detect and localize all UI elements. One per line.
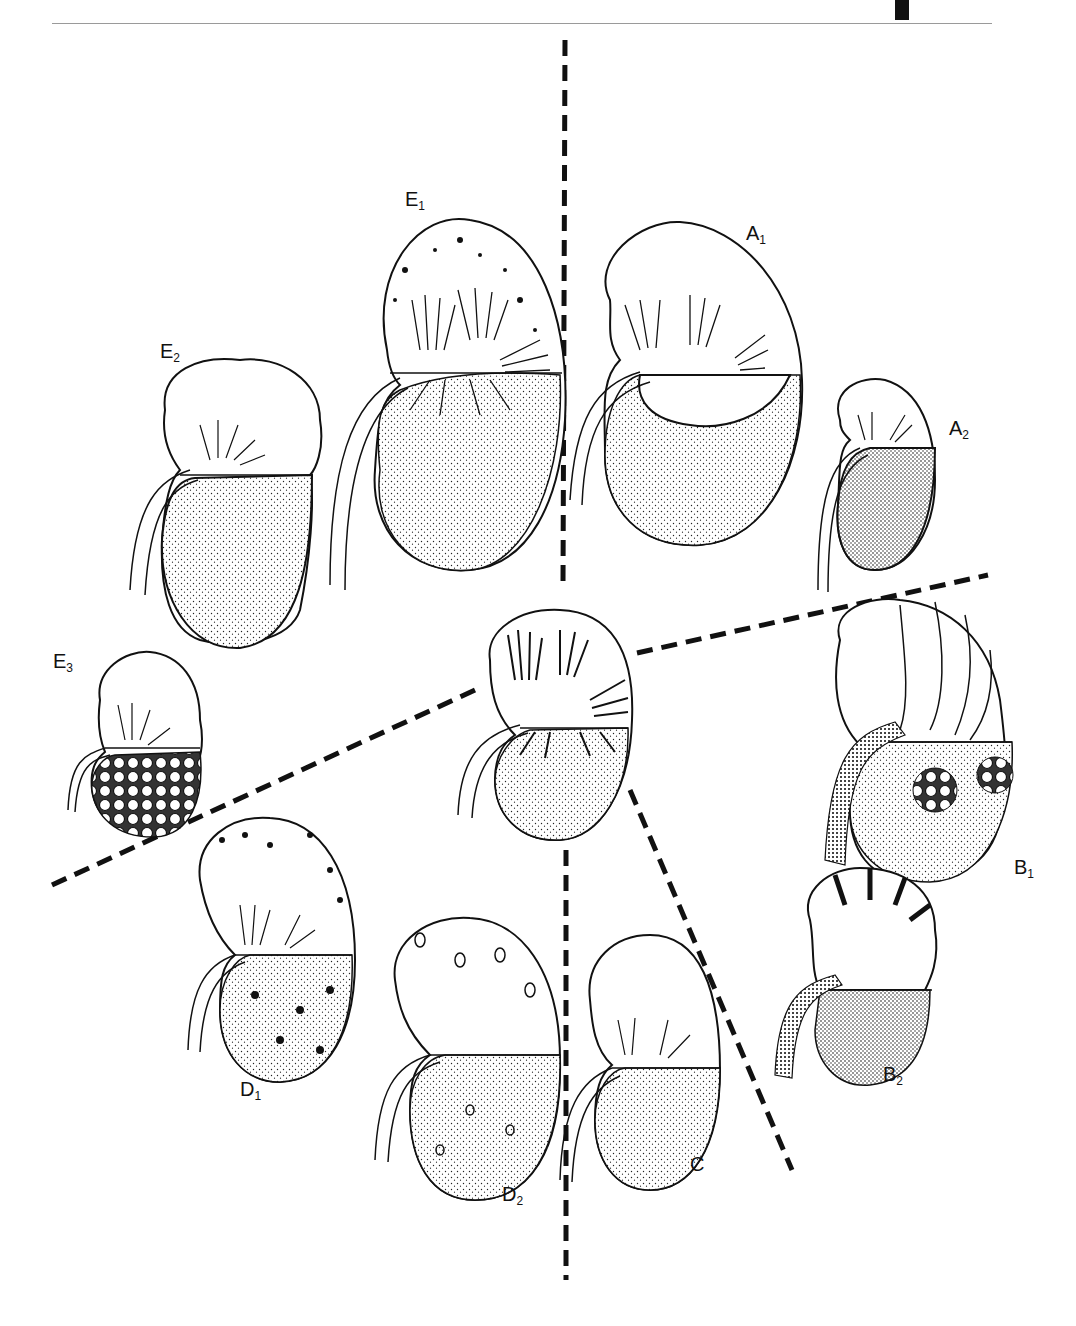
label-b2: B2 [883,1063,903,1088]
label-b1: B1 [1014,856,1034,881]
label-e3: E3 [53,650,73,675]
kidney-e3 [68,652,202,837]
kidney-a2 [818,379,935,592]
kidney-b2 [775,868,936,1085]
label-a2: A2 [949,417,969,442]
label-d2: D2 [502,1183,523,1208]
kidney-d1 [188,818,355,1082]
divider-top [563,40,565,585]
kidney-c [560,935,720,1190]
label-c: C [690,1153,704,1178]
kidney-e2 [130,359,321,648]
label-e2: E2 [160,340,180,365]
kidney-b1 [825,599,1013,882]
label-a1: A1 [746,222,766,247]
kidney-diagram [0,0,1076,1326]
kidney-d2 [375,918,560,1200]
kidney-center-normal [458,610,632,840]
label-d1: D1 [240,1078,261,1103]
kidney-e1 [330,219,566,590]
kidney-a1 [570,222,802,545]
label-e1: E1 [405,188,425,213]
